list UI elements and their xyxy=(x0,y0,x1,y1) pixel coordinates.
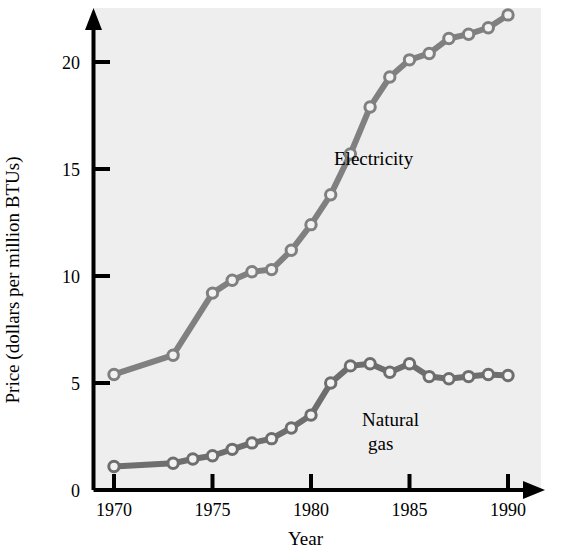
x-axis-title-text: Year xyxy=(246,528,323,549)
data-point xyxy=(247,438,257,448)
data-point xyxy=(463,371,473,381)
data-point xyxy=(463,29,473,39)
y-axis-title-text: Price (dollars per million BTUs) xyxy=(2,157,24,404)
y-tick-label: 10 xyxy=(62,267,80,287)
data-point xyxy=(109,369,119,379)
data-point xyxy=(247,267,257,277)
data-point xyxy=(306,410,316,420)
x-tick-label: 1980 xyxy=(293,500,329,520)
data-point xyxy=(168,350,178,360)
data-point xyxy=(483,23,493,33)
data-point xyxy=(286,423,296,433)
annotation-electricity: Electricity xyxy=(334,148,414,169)
chart-figure: 05101520 19701975198019851990 Electricit… xyxy=(0,0,569,560)
data-series xyxy=(109,10,513,472)
data-point xyxy=(109,461,119,471)
data-point xyxy=(326,189,336,199)
data-point xyxy=(326,378,336,388)
x-tick-label: 1970 xyxy=(96,500,132,520)
chart-canvas: 05101520 19701975198019851990 Electricit… xyxy=(0,0,569,560)
data-point xyxy=(227,275,237,285)
data-point xyxy=(404,55,414,65)
y-tick-labels: 05101520 xyxy=(62,53,80,501)
x-axis-title: Year xyxy=(0,528,569,550)
x-tick-label: 1990 xyxy=(490,500,526,520)
data-point xyxy=(444,374,454,384)
data-point xyxy=(483,369,493,379)
data-point xyxy=(385,367,395,377)
data-point xyxy=(227,444,237,454)
data-point xyxy=(365,102,375,112)
y-tick-label: 5 xyxy=(71,374,80,394)
x-tick-label: 1975 xyxy=(195,500,231,520)
y-axis-arrowhead xyxy=(85,8,102,30)
data-point xyxy=(286,245,296,255)
data-point xyxy=(188,454,198,464)
annotation-natural-gas: Naturalgas xyxy=(362,409,419,454)
series-natural-gas xyxy=(109,359,513,472)
y-axis-title: Price (dollars per million BTUs) xyxy=(0,0,26,560)
series-electricity xyxy=(109,10,513,380)
y-tick-label: 0 xyxy=(71,481,80,501)
annotation-line-1: Natural xyxy=(362,409,419,430)
series-annotations: ElectricityNaturalgas xyxy=(334,148,419,454)
data-point xyxy=(404,359,414,369)
x-tick-labels: 19701975198019851990 xyxy=(96,500,526,520)
data-point xyxy=(207,451,217,461)
data-point xyxy=(424,48,434,58)
annotation-line-2: gas xyxy=(368,433,393,454)
data-point xyxy=(306,219,316,229)
data-point xyxy=(444,33,454,43)
x-axis-arrowhead xyxy=(523,481,545,499)
data-point xyxy=(365,359,375,369)
series-line xyxy=(114,15,508,375)
data-point xyxy=(345,361,355,371)
y-tick-label: 15 xyxy=(62,160,80,180)
axes xyxy=(85,8,545,499)
data-point xyxy=(385,72,395,82)
data-point xyxy=(503,10,513,20)
data-point xyxy=(207,288,217,298)
data-point xyxy=(168,458,178,468)
tick-marks xyxy=(94,62,509,490)
data-point xyxy=(503,370,513,380)
y-tick-label: 20 xyxy=(62,53,80,73)
x-tick-label: 1985 xyxy=(392,500,428,520)
data-point xyxy=(424,371,434,381)
data-point xyxy=(266,264,276,274)
data-point xyxy=(266,433,276,443)
